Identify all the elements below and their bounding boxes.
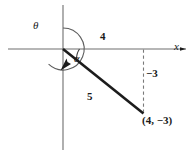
- alpha-angle-label: α: [74, 54, 80, 65]
- figure-canvas: [0, 0, 193, 155]
- terminal-point-label: (4, −3): [142, 115, 172, 126]
- math-figure: θ α 4 x −3 5 (4, −3): [0, 0, 193, 155]
- theta-angle-label: θ: [33, 20, 38, 31]
- radius-length-label: 5: [87, 91, 93, 102]
- x-axis-label: x: [174, 41, 179, 52]
- vertical-leg-label: −3: [146, 68, 158, 79]
- horizontal-leg-label: 4: [100, 31, 106, 42]
- x-axis-arrowhead-icon: [180, 47, 186, 51]
